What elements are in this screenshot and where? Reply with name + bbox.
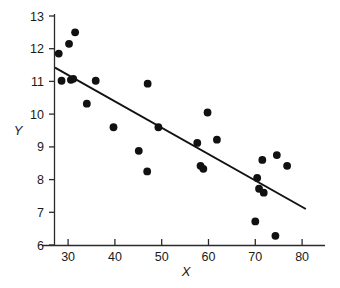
data-point (83, 100, 91, 108)
x-tick-label-70: 70 (248, 250, 262, 264)
data-point (155, 123, 163, 131)
x-axis-ticks (68, 239, 302, 246)
x-axis-title: X (181, 264, 192, 279)
data-point (69, 75, 77, 83)
data-point (283, 162, 291, 170)
data-point (204, 109, 212, 117)
data-point (65, 40, 73, 48)
scatter-plot-figure: 13 12 11 10 9 8 7 6 30 40 50 60 70 80 (0, 0, 340, 288)
data-point (143, 167, 151, 175)
data-point (199, 165, 207, 173)
data-point (251, 218, 259, 226)
data-point (253, 174, 261, 182)
y-tick-label-13: 13 (30, 10, 44, 24)
x-tick-label-30: 30 (61, 250, 75, 264)
y-tick-label-6: 6 (37, 239, 44, 253)
x-tick-label-60: 60 (202, 250, 216, 264)
y-axis-ticks (49, 16, 55, 245)
x-tick-label-50: 50 (155, 250, 169, 264)
y-tick-label-7: 7 (37, 206, 44, 220)
data-point (58, 77, 66, 85)
y-tick-label-11: 11 (31, 75, 44, 89)
x-tick-label-40: 40 (108, 250, 122, 264)
data-point (144, 80, 152, 88)
x-tick-label-80: 80 (295, 250, 309, 264)
data-point (55, 50, 63, 58)
y-tick-label-9: 9 (37, 140, 44, 154)
data-point (272, 232, 280, 240)
data-point (135, 147, 143, 155)
data-point (260, 189, 268, 197)
plot-canvas: 13 12 11 10 9 8 7 6 30 40 50 60 70 80 (0, 0, 340, 288)
y-axis-title: Y (14, 123, 24, 138)
x-axis-tick-labels: 30 40 50 60 70 80 (61, 250, 309, 264)
y-tick-label-12: 12 (30, 42, 44, 56)
data-point (110, 123, 118, 131)
data-point (258, 156, 266, 164)
data-point (273, 151, 281, 159)
data-point (92, 77, 100, 85)
regression-line (55, 68, 306, 209)
y-axis-tick-labels: 13 12 11 10 9 8 7 6 (30, 10, 44, 253)
y-tick-label-8: 8 (37, 173, 44, 187)
data-point (71, 28, 79, 36)
data-point (193, 139, 201, 147)
y-tick-label-10: 10 (30, 108, 44, 122)
data-point (213, 136, 221, 144)
